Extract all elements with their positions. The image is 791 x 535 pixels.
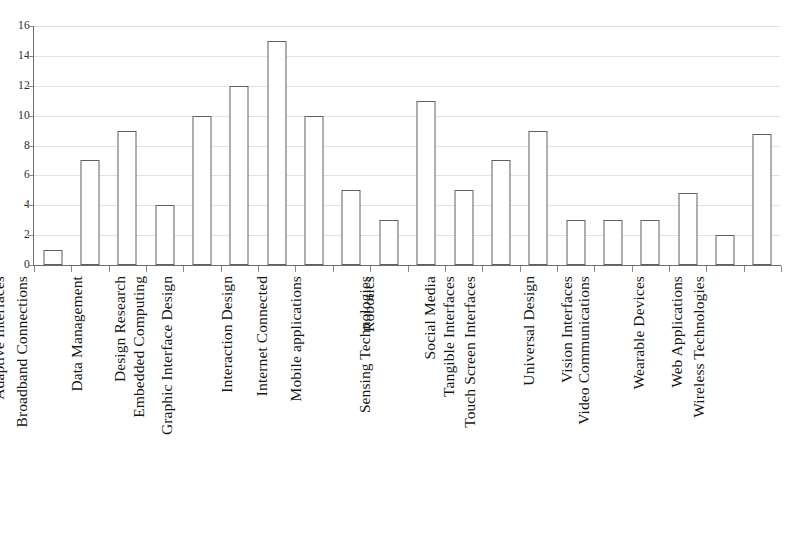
bar[interactable]: [529, 131, 548, 265]
x-axis-tick-mark: [744, 266, 745, 272]
x-axis-category-label: Universal Design: [521, 276, 537, 386]
bar-slot: [445, 26, 482, 265]
y-axis-tick-mark: [28, 86, 33, 87]
x-axis-category-label: Wearable Devices: [631, 276, 647, 390]
x-axis-category-label: Tangible Interfaces: [440, 276, 456, 397]
x-axis-category: Wireless Technologies: [744, 272, 781, 530]
y-axis-tick-mark: [28, 146, 33, 147]
x-axis-tick-mark: [594, 266, 595, 272]
y-axis-tick-label: 16: [2, 20, 30, 32]
bar-slot: [520, 26, 557, 265]
x-axis-tick-mark: [34, 266, 35, 272]
bar-slot: [408, 26, 445, 265]
bar-slot: [183, 26, 220, 265]
y-axis-tick-mark: [28, 56, 33, 57]
x-axis-category-label: Sensing Technologies: [358, 276, 374, 413]
y-axis-tick-mark: [28, 116, 33, 117]
x-axis-category-label: Vision Interfaces: [559, 276, 575, 383]
bar-slot: [370, 26, 407, 265]
x-axis-tick-mark: [557, 266, 558, 272]
bar[interactable]: [118, 131, 137, 265]
x-axis-category-label: Mobile applications: [289, 276, 305, 401]
bar[interactable]: [267, 41, 286, 265]
x-axis-category-label: Broadband Connections: [14, 276, 30, 427]
x-axis-category: Tangible Interfaces: [482, 272, 519, 530]
bar-slot: [744, 26, 781, 265]
bar-slot: [706, 26, 743, 265]
x-axis-tick-mark: [632, 266, 633, 272]
y-axis-tick-mark: [28, 205, 33, 206]
x-axis-category: Robotics: [370, 272, 407, 530]
x-axis-category-label: Data Management: [70, 276, 86, 392]
y-axis-tick-mark: [28, 265, 33, 266]
x-axis-category-label: Internet Connected: [254, 276, 270, 396]
x-axis-tick-mark: [71, 266, 72, 272]
bar-slot: [71, 26, 108, 265]
bar[interactable]: [230, 86, 249, 265]
bar[interactable]: [678, 193, 697, 265]
x-axis-category-label: Video Communications: [576, 276, 592, 425]
bar-slot: [557, 26, 594, 265]
x-axis-category: Adaptive Interfaces: [34, 272, 71, 530]
y-axis: 0246810121416: [0, 0, 30, 535]
bar[interactable]: [454, 190, 473, 265]
x-axis-category-label: Web Applications: [669, 276, 685, 388]
x-axis-category: Vision Interfaces: [594, 272, 631, 530]
bar-slot: [221, 26, 258, 265]
y-axis-tick-label: 6: [2, 169, 30, 181]
bar[interactable]: [43, 250, 62, 265]
bar[interactable]: [379, 220, 398, 265]
bar-slot: [258, 26, 295, 265]
y-axis-tick-label: 8: [2, 140, 30, 152]
y-axis-tick-label: 10: [2, 110, 30, 122]
bar-slot: [632, 26, 669, 265]
bar[interactable]: [342, 190, 361, 265]
x-axis-category-label: Graphic Interface Design: [160, 276, 176, 435]
x-axis-category-label: Interaction Design: [218, 276, 234, 393]
bars-group: [34, 26, 781, 265]
x-axis-category-labels: Adaptive InterfacesBroadband Connections…: [34, 272, 781, 530]
bar-slot: [669, 26, 706, 265]
bar[interactable]: [81, 160, 100, 265]
x-axis-tick-mark: [445, 266, 446, 272]
bar[interactable]: [305, 116, 324, 265]
bar[interactable]: [753, 134, 772, 265]
bar-slot: [482, 26, 519, 265]
bar-slot: [34, 26, 71, 265]
bar[interactable]: [715, 235, 734, 265]
bar-slot: [594, 26, 631, 265]
x-axis-tick-mark: [333, 266, 334, 272]
y-axis-tick-label: 2: [2, 229, 30, 241]
bar[interactable]: [603, 220, 622, 265]
x-axis-tick-mark: [109, 266, 110, 272]
y-axis-tick-label: 4: [2, 199, 30, 211]
x-axis-tick-mark: [669, 266, 670, 272]
x-axis-tick-mark: [183, 266, 184, 272]
bar[interactable]: [193, 116, 212, 265]
x-axis-tick-mark: [408, 266, 409, 272]
x-axis-tick-mark: [781, 266, 782, 272]
y-axis-tick-label: 12: [2, 80, 30, 92]
x-axis-category-label: Wireless Technologies: [691, 276, 707, 418]
bar-slot: [146, 26, 183, 265]
bar-slot: [109, 26, 146, 265]
y-axis-tick-mark: [28, 235, 33, 236]
x-axis-tick-mark: [370, 266, 371, 272]
x-axis-category: Web Applications: [706, 272, 743, 530]
x-axis-category-label: Social Media: [422, 276, 438, 359]
x-axis-category-label: Design Research: [112, 276, 128, 382]
x-axis-category-label: Embedded Computing: [131, 276, 147, 418]
plot-area: 0246810121416 Adaptive InterfacesBroadba…: [0, 0, 791, 535]
x-axis-tick-mark: [520, 266, 521, 272]
x-axis-tick-mark: [482, 266, 483, 272]
x-axis-tick-mark: [221, 266, 222, 272]
bar[interactable]: [641, 220, 660, 265]
y-axis-tick-label: 14: [2, 50, 30, 62]
bar[interactable]: [155, 205, 174, 265]
x-axis-tick-mark: [706, 266, 707, 272]
bar[interactable]: [491, 160, 510, 265]
bar[interactable]: [417, 101, 436, 265]
y-axis-tick-label: 0: [2, 259, 30, 271]
bar[interactable]: [566, 220, 585, 265]
x-axis-category-label: Adaptive Interfaces: [0, 276, 7, 400]
